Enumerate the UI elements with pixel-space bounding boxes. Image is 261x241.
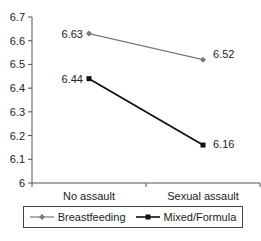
y-tick-label: 6.6 <box>10 35 25 47</box>
data-label: 6.52 <box>213 48 234 60</box>
legend: Breastfeeding Mixed/Formula <box>23 206 243 228</box>
square-marker-icon <box>201 143 206 148</box>
series-line <box>89 34 203 60</box>
series-layer: 6.636.526.446.16 <box>62 28 235 150</box>
line-chart: 66.16.26.36.46.56.66.7 No assaultSexual … <box>0 0 261 241</box>
y-tick-label: 6.5 <box>10 58 25 70</box>
y-tick-label: 6 <box>19 177 25 189</box>
x-category-label: Sexual assault <box>167 190 239 202</box>
y-tick-label: 6.2 <box>10 130 25 142</box>
series-line <box>89 79 203 145</box>
x-category-label: No assault <box>63 190 115 202</box>
y-tick-label: 6.1 <box>10 153 25 165</box>
y-axis: 66.16.26.36.46.56.66.7 <box>10 11 32 189</box>
data-label: 6.44 <box>62 73 83 85</box>
legend-item-breastfeeding: Breastfeeding <box>30 211 126 223</box>
square-marker-icon <box>87 76 92 81</box>
square-line-icon <box>136 213 160 221</box>
y-tick-label: 6.7 <box>10 11 25 23</box>
diamond-line-icon <box>30 213 54 221</box>
data-label: 6.63 <box>62 28 83 40</box>
legend-label: Breastfeeding <box>58 211 126 223</box>
y-tick-label: 6.3 <box>10 106 25 118</box>
diamond-marker-icon <box>86 31 92 37</box>
data-label: 6.16 <box>213 138 234 150</box>
x-axis: No assaultSexual assault <box>32 183 260 202</box>
legend-label: Mixed/Formula <box>164 211 237 223</box>
diamond-marker-icon <box>200 57 206 63</box>
y-tick-label: 6.4 <box>10 82 25 94</box>
legend-item-mixed-formula: Mixed/Formula <box>136 211 237 223</box>
